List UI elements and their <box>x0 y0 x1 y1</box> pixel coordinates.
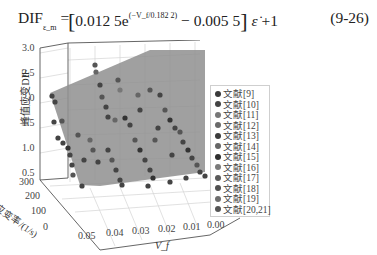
marker-icon <box>215 206 221 212</box>
legend-item: 文献[16] <box>215 163 259 174</box>
marker-icon <box>215 164 221 170</box>
z-axis-label: 峰值应变DIF <box>17 68 32 128</box>
legend-item: 文献[20,21] <box>215 205 271 216</box>
legend-item: 文献[12] <box>215 121 259 132</box>
legend-item: 文献[15] <box>215 152 259 163</box>
legend-item: 文献[14] <box>215 142 259 153</box>
dif-3d-scatter-chart: 3.0 2.5 2.0 1.5 1.0 0.5 300 200 100 0 0.… <box>0 40 377 255</box>
marker-icon <box>215 185 221 191</box>
y-tick: 200 <box>25 190 40 201</box>
marker-icon <box>215 91 221 97</box>
x-axis-label: V_f <box>155 240 169 251</box>
x-tick: 0.03 <box>132 225 150 236</box>
marker-icon <box>215 133 221 139</box>
legend-item: 文献[19] <box>215 194 259 205</box>
legend: 文献[9] 文献[10] 文献[11] 文献[12] 文献[13] 文献[14]… <box>210 85 270 217</box>
equation-number: (9-26) <box>330 4 369 32</box>
marker-icon <box>215 196 221 202</box>
marker-icon <box>215 154 221 160</box>
equation-rhs: [0.012 5e(−V_f/0.182 2) − 0.005 5] ε̇ +1 <box>68 4 278 35</box>
z-tick: 3.0 <box>22 42 35 53</box>
equation-lhs: DIFε_m = <box>18 4 69 39</box>
x-tick: 0.05 <box>78 230 96 241</box>
x-tick: 0.04 <box>106 227 124 238</box>
marker-icon <box>215 101 221 107</box>
marker-icon <box>215 143 221 149</box>
marker-icon <box>215 112 221 118</box>
legend-item: 文献[11] <box>215 110 258 121</box>
x-tick: 0.02 <box>158 223 176 234</box>
equation-9-26: DIFε_m = [0.012 5e(−V_f/0.182 2) − 0.005… <box>18 4 373 32</box>
x-tick: 0.01 <box>183 221 201 232</box>
marker-icon <box>215 122 221 128</box>
legend-item: 文献[13] <box>215 131 259 142</box>
y-tick: 0 <box>43 221 48 232</box>
x-tick: 0.00 <box>207 219 225 230</box>
legend-item: 文献[17] <box>215 173 259 184</box>
legend-item: 文献[9] <box>215 89 254 100</box>
y-tick: 100 <box>31 205 46 216</box>
marker-icon <box>215 175 221 181</box>
legend-item: 文献[18] <box>215 184 259 195</box>
legend-item: 文献[10] <box>215 100 259 111</box>
z-tick: 1.0 <box>22 142 35 153</box>
y-tick: 300 <box>19 176 34 187</box>
